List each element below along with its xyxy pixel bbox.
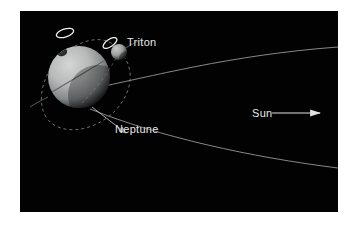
neptune-pole-marker [55, 26, 75, 39]
neptune-orbit-upper-arc [90, 47, 338, 89]
figure-root: Triton Neptune Sun [0, 0, 356, 241]
triton-terminator-shadow [119, 51, 135, 67]
neptune-label: Neptune [115, 123, 159, 135]
diagram-canvas [20, 11, 338, 212]
space-diagram-panel: Triton Neptune Sun [20, 11, 338, 212]
triton-label: Triton [127, 36, 157, 48]
neptune-orbit-lower-arc [90, 109, 338, 168]
neptune-ring-plane-left [30, 97, 48, 107]
neptune-terminator-shadow [68, 65, 128, 125]
sun-label: Sun [252, 107, 272, 119]
